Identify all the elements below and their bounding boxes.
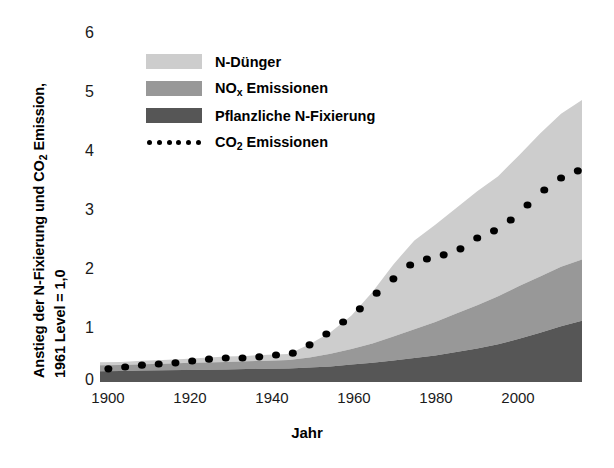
legend-item-co2-emissionen: CO2 Emissionen bbox=[146, 129, 476, 156]
y-tick-0: 0 bbox=[68, 371, 94, 389]
co2-data-point bbox=[423, 255, 431, 262]
co2-data-point bbox=[356, 305, 364, 312]
legend-swatch-co2-dotted-line bbox=[146, 135, 202, 150]
y-axis-tick-labels: 6 5 4 3 2 1 0 bbox=[60, 0, 94, 400]
co2-data-point bbox=[473, 234, 481, 241]
co2-data-point bbox=[155, 360, 163, 367]
legend-item-n-duenger: N-Dünger bbox=[146, 48, 476, 75]
co2-data-point bbox=[239, 354, 247, 361]
co2-data-point bbox=[171, 359, 179, 366]
co2-data-point bbox=[389, 275, 397, 282]
y-axis-title-subscript: 2 bbox=[37, 155, 49, 161]
x-tick-1960: 1960 bbox=[324, 389, 384, 406]
co2-data-point bbox=[121, 363, 129, 370]
y-tick-3: 3 bbox=[68, 201, 94, 219]
co2-data-point bbox=[406, 261, 414, 268]
y-tick-5: 5 bbox=[68, 83, 94, 101]
legend-swatch-nox-emissionen bbox=[146, 81, 202, 96]
co2-data-point bbox=[373, 290, 381, 297]
co2-data-point bbox=[222, 354, 230, 361]
co2-data-point bbox=[322, 330, 330, 337]
legend-dot-icon bbox=[167, 140, 172, 145]
co2-data-point bbox=[255, 353, 263, 360]
x-tick-1980: 1980 bbox=[406, 389, 466, 406]
x-tick-1900: 1900 bbox=[78, 389, 138, 406]
co2-data-point bbox=[490, 227, 498, 234]
co2-data-point bbox=[540, 186, 548, 193]
legend-dot-icon bbox=[157, 140, 162, 145]
legend-item-nox-emissionen: NOx Emissionen bbox=[146, 75, 476, 102]
y-tick-1: 1 bbox=[68, 319, 94, 337]
legend-dot-icon bbox=[147, 140, 152, 145]
co2-data-point bbox=[188, 357, 196, 364]
chart-figure: Anstieg der N-Fixierung und CO2 Emission… bbox=[0, 0, 614, 468]
legend-dot-icon bbox=[186, 140, 191, 145]
x-axis-tick-labels: 1900 1920 1940 1960 1980 2000 bbox=[0, 389, 614, 413]
co2-data-point bbox=[456, 245, 464, 252]
co2-data-point bbox=[104, 365, 112, 372]
legend-swatch-pflanzliche-n-fixierung bbox=[146, 108, 202, 123]
x-tick-1920: 1920 bbox=[160, 389, 220, 406]
co2-data-point bbox=[557, 174, 565, 181]
chart-legend: N-Dünger NOx Emissionen Pflanzliche N-Fi… bbox=[146, 48, 476, 156]
co2-data-point bbox=[289, 350, 297, 357]
co2-data-point bbox=[574, 167, 582, 174]
x-axis-title: Jahr bbox=[0, 424, 614, 441]
co2-data-point bbox=[339, 318, 347, 325]
legend-dot-icon bbox=[196, 140, 201, 145]
y-tick-4: 4 bbox=[68, 142, 94, 160]
co2-data-point bbox=[306, 341, 314, 348]
co2-data-point bbox=[272, 351, 280, 358]
legend-label-nox-emissionen: NOx Emissionen bbox=[215, 80, 328, 98]
co2-data-point bbox=[138, 362, 146, 369]
co2-data-point bbox=[205, 356, 213, 363]
co2-data-point bbox=[440, 251, 448, 258]
legend-label-co2-emissionen: CO2 Emissionen bbox=[215, 134, 328, 152]
y-axis-title-line1: Anstieg der N-Fixierung und CO2 Emission… bbox=[31, 83, 49, 378]
co2-data-point bbox=[524, 201, 532, 208]
legend-label-n-duenger: N-Dünger bbox=[215, 54, 281, 70]
legend-item-pflanzliche-n-fixierung: Pflanzliche N-Fixierung bbox=[146, 102, 476, 129]
legend-dot-icon bbox=[176, 140, 181, 145]
legend-swatch-n-duenger bbox=[146, 54, 202, 69]
y-tick-6: 6 bbox=[68, 24, 94, 42]
legend-label-pflanzliche-n-fixierung: Pflanzliche N-Fixierung bbox=[215, 108, 375, 124]
co2-data-point bbox=[507, 216, 515, 223]
x-tick-2000: 2000 bbox=[488, 389, 548, 406]
x-tick-1940: 1940 bbox=[242, 389, 302, 406]
y-tick-2: 2 bbox=[68, 260, 94, 278]
